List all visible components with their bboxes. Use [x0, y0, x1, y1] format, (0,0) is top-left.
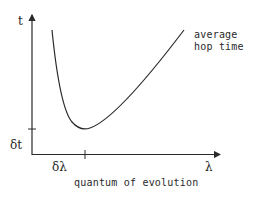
- curve-label-line2: hop time: [194, 41, 244, 53]
- y-tick-label: δt: [10, 139, 22, 151]
- x-tick-label: δλ: [52, 161, 67, 173]
- x-axis-label: λ: [205, 161, 213, 173]
- y-axis-label: t: [18, 15, 23, 27]
- x-axis-caption: quantum of evolution: [74, 177, 198, 189]
- hop-time-curve: [52, 30, 184, 129]
- curve-label-line1: average: [194, 29, 238, 41]
